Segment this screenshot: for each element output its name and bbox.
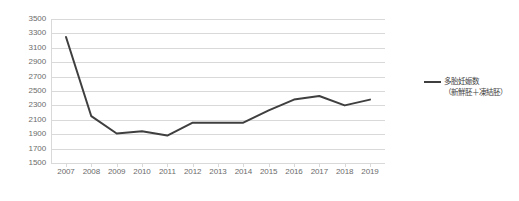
y-axis-tick-label: 2700 (6, 73, 46, 81)
gridline (51, 33, 385, 34)
legend-line-swatch (424, 81, 441, 83)
y-axis-tick-label: 1700 (6, 145, 46, 153)
gridline (51, 62, 385, 63)
legend-label-line1: 多胎妊娠数 (444, 76, 507, 87)
plot-area (51, 19, 385, 163)
y-axis-tick-label: 3100 (6, 44, 46, 52)
gridline (51, 149, 385, 150)
line-chart: 3500330031002900270025002300210019001700… (0, 0, 519, 201)
y-axis-tick-label: 1500 (6, 159, 46, 167)
y-axis-tick-label: 2900 (6, 58, 46, 66)
gridline (51, 120, 385, 121)
y-axis-tick-label: 3300 (6, 29, 46, 37)
gridline (51, 134, 385, 135)
legend-label-line2: （新鮮胚＋凍結胚） (444, 87, 507, 98)
gridline (51, 105, 385, 106)
y-axis-tick-label: 3500 (6, 15, 46, 23)
gridline (51, 19, 385, 20)
gridline (51, 77, 385, 78)
y-axis-tick-label: 2300 (6, 101, 46, 109)
y-axis-tick-label: 2500 (6, 87, 46, 95)
y-axis-tick-label: 2100 (6, 116, 46, 124)
gridline (51, 48, 385, 49)
legend-label: 多胎妊娠数 （新鮮胚＋凍結胚） (444, 76, 507, 98)
y-axis-tick-label: 1900 (6, 130, 46, 138)
chart-legend: 多胎妊娠数 （新鮮胚＋凍結胚） (424, 76, 507, 98)
gridline (51, 91, 385, 92)
x-axis-tick-label: 2019 (355, 168, 385, 176)
